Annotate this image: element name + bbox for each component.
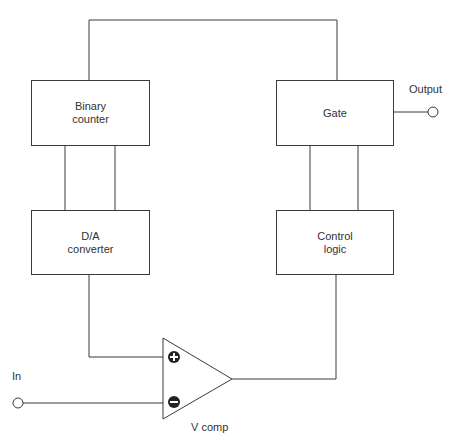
binary-counter-block: Binarycounter [31,80,150,146]
comparator-label: V comp [191,421,228,433]
gate-label: Gate [323,107,347,120]
top-connection-line [89,20,337,80]
binary-counter-label-2: counter [72,113,109,125]
comparator-plus-icon [168,351,180,363]
da-converter-label-1: D/A [81,230,99,242]
comparator-minus-icon [168,396,180,408]
output-label: Output [409,83,442,95]
da-converter-block: D/Aconverter [31,210,150,275]
input-label: In [12,370,21,382]
da-converter-label-2: converter [68,243,114,255]
input-terminal [13,398,23,408]
control-logic-block: Controllogic [276,210,394,275]
output-terminal [428,107,438,117]
da-to-comparator-line [89,274,163,357]
comparator-to-control-line [232,274,336,379]
gate-block: Gate [276,80,394,146]
control-logic-label-2: logic [324,243,347,255]
control-logic-label-1: Control [317,230,352,242]
binary-counter-label-1: Binary [75,100,106,112]
diagram-canvas: Binarycounter Gate D/Aconverter Controll… [0,0,458,444]
